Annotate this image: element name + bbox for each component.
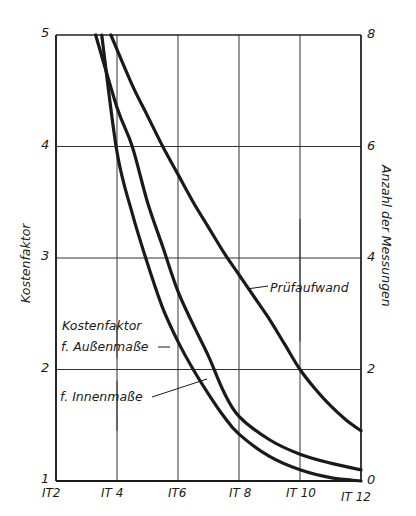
left-y-axis-label: Kostenfaktor bbox=[20, 224, 33, 303]
right-y-axis-label: Anzahl der Messungen bbox=[380, 165, 393, 307]
left-y-tick-label: 4 bbox=[41, 138, 49, 151]
annotation-leader-lines bbox=[152, 286, 268, 397]
chart-canvas bbox=[0, 0, 416, 516]
left-y-tick-label: 3 bbox=[41, 249, 49, 262]
left-y-tick-label: 1 bbox=[41, 472, 49, 485]
x-tick-label: IT6 bbox=[168, 487, 187, 499]
annotation-pruefaufwand: Prüfaufwand bbox=[270, 282, 349, 295]
x-tick-label: IT 12 bbox=[341, 491, 371, 503]
grid-lines bbox=[56, 35, 361, 481]
x-tick-label: IT 8 bbox=[229, 487, 251, 499]
right-y-tick-label: 0 bbox=[367, 473, 375, 486]
x-tick-label: IT2 bbox=[42, 487, 61, 499]
leader-pruefaufwand bbox=[247, 286, 268, 289]
curve-innenmasse bbox=[96, 35, 361, 470]
annotation-innenmasse: f. Innenmaße bbox=[60, 391, 143, 404]
right-y-tick-label: 8 bbox=[367, 27, 375, 40]
curve-pruefaufwand bbox=[111, 35, 361, 431]
left-y-tick-label: 5 bbox=[41, 26, 49, 39]
right-y-tick-label: 6 bbox=[367, 139, 375, 152]
left-y-tick-label: 2 bbox=[41, 361, 49, 374]
annotation-aussenmasse-line2: f. Außenmaße bbox=[61, 341, 149, 354]
right-y-tick-label: 2 bbox=[367, 362, 375, 375]
leader-innenmasse bbox=[152, 379, 207, 397]
annotation-aussenmasse-line1: Kostenfaktor bbox=[62, 320, 141, 333]
right-y-tick-label: 4 bbox=[367, 250, 375, 263]
x-tick-label: IT 4 bbox=[101, 487, 123, 499]
x-tick-label: IT 10 bbox=[286, 487, 316, 499]
